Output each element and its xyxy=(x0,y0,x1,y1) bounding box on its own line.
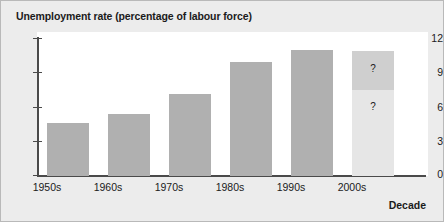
bar-2000s-projected: ? ? xyxy=(352,51,394,176)
bar-2000s-lower-segment: ? xyxy=(352,90,394,176)
x-label-1970s: 1970s xyxy=(139,181,199,193)
chart-figure: Unemployment rate (percentage of labour … xyxy=(0,0,444,222)
x-label-1990s: 1990s xyxy=(261,181,321,193)
bar-1960s xyxy=(108,114,150,176)
question-mark-lower: ? xyxy=(352,101,394,112)
x-label-1950s: 1950s xyxy=(17,181,77,193)
bars-layer: ? ? xyxy=(37,32,428,176)
bar-1970s xyxy=(169,94,211,176)
x-axis-title: Decade xyxy=(389,199,426,211)
x-label-1960s: 1960s xyxy=(78,181,138,193)
question-mark-upper: ? xyxy=(352,63,394,74)
bar-2000s-upper-segment: ? xyxy=(352,51,394,89)
x-label-1980s: 1980s xyxy=(200,181,260,193)
bar-1950s xyxy=(47,123,89,176)
chart-title: Unemployment rate (percentage of labour … xyxy=(16,10,252,22)
bar-1980s xyxy=(230,62,272,176)
x-label-2000s: 2000s xyxy=(322,181,382,193)
bar-1990s xyxy=(291,50,333,176)
